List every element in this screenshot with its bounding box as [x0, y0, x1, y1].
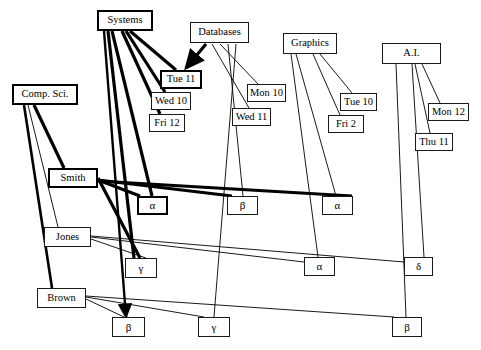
- node-label: β: [240, 200, 246, 211]
- edge-databases-to-gamma2: [214, 44, 236, 317]
- node-label: Wed 10: [155, 96, 187, 107]
- node-label: Fri 12: [154, 118, 179, 129]
- node-label: Systems: [107, 15, 142, 26]
- node-beta3[interactable]: β: [392, 317, 422, 337]
- node-wed10[interactable]: Wed 10: [151, 92, 191, 110]
- node-compsci[interactable]: Comp. Sci.: [12, 84, 78, 105]
- node-smith[interactable]: Smith: [48, 168, 98, 188]
- node-fri2[interactable]: Fri 2: [328, 115, 364, 133]
- node-label: Tue 11: [167, 74, 196, 85]
- edge-jones-to-alpha3: [91, 237, 304, 262]
- node-label: Tue 10: [344, 97, 373, 108]
- node-databases[interactable]: Databases: [190, 22, 249, 43]
- edge-databases-to-mon10: [220, 44, 258, 84]
- edge-graphics-to-tue10: [320, 54, 352, 93]
- node-label: α: [317, 261, 323, 272]
- node-label: Comp. Sci.: [22, 89, 69, 100]
- node-gamma1[interactable]: γ: [125, 258, 157, 278]
- node-label: Graphics: [291, 38, 329, 49]
- edge-databases-to-tue11: [186, 44, 206, 68]
- node-label: Databases: [198, 27, 241, 38]
- node-beta2[interactable]: β: [112, 317, 145, 337]
- edge-ai-to-thu11: [415, 64, 430, 133]
- node-alpha1[interactable]: α: [137, 196, 168, 215]
- node-graphics[interactable]: Graphics: [283, 33, 337, 54]
- node-label: γ: [212, 322, 217, 333]
- node-thu11[interactable]: Thu 11: [415, 133, 453, 151]
- node-label: Fri 2: [336, 119, 356, 130]
- node-label: δ: [416, 261, 421, 272]
- node-label: Thu 11: [419, 137, 449, 148]
- node-label: γ: [139, 263, 144, 274]
- edge-compsci-to-smith: [34, 105, 64, 168]
- node-tue10[interactable]: Tue 10: [340, 93, 377, 111]
- node-label: Wed 11: [236, 112, 268, 123]
- node-label: Mon 12: [432, 107, 465, 118]
- node-label: A.I.: [403, 48, 419, 59]
- edge-graphics-to-fri2: [313, 54, 340, 115]
- edge-ai-to-beta3: [396, 64, 406, 317]
- node-delta1[interactable]: δ: [404, 257, 433, 276]
- node-wed11[interactable]: Wed 11: [232, 108, 271, 126]
- node-label: Brown: [47, 293, 76, 304]
- edge-ai-to-delta1: [412, 64, 424, 257]
- node-alpha3[interactable]: α: [304, 257, 335, 276]
- edge-databases-to-wed11: [212, 44, 249, 108]
- node-gamma2[interactable]: γ: [198, 317, 230, 337]
- node-fri12[interactable]: Fri 12: [149, 114, 185, 132]
- edge-jones-to-gamma1: [91, 239, 146, 258]
- node-ai[interactable]: A.I.: [382, 43, 441, 64]
- node-label: Smith: [60, 173, 85, 184]
- node-jones[interactable]: Jones: [44, 227, 91, 247]
- node-label: Mon 10: [250, 88, 283, 99]
- node-mon12[interactable]: Mon 12: [428, 103, 469, 121]
- node-label: Jones: [56, 232, 79, 243]
- node-label: α: [335, 200, 341, 211]
- node-label: β: [126, 322, 132, 333]
- node-label: α: [150, 200, 156, 211]
- node-beta1[interactable]: β: [227, 196, 258, 215]
- node-label: β: [404, 322, 410, 333]
- node-alpha2[interactable]: α: [322, 196, 353, 215]
- node-systems[interactable]: Systems: [97, 10, 153, 31]
- node-mon10[interactable]: Mon 10: [247, 84, 286, 102]
- edge-ai-to-mon12: [422, 64, 440, 103]
- edge-brown-to-beta2: [86, 299, 124, 317]
- edge-brown-to-beta3: [86, 296, 394, 317]
- node-tue11[interactable]: Tue 11: [160, 70, 202, 89]
- node-brown[interactable]: Brown: [37, 288, 86, 308]
- diagram-canvas: SystemsDatabasesGraphicsA.I.Tue 11Wed 10…: [0, 0, 481, 350]
